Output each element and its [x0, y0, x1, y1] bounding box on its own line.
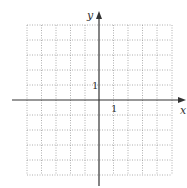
x-axis-label: x [180, 104, 187, 117]
y-axis [96, 11, 102, 186]
y-tick-label: 1 [92, 80, 98, 91]
y-axis-arrow-icon [96, 11, 102, 19]
y-axis-label: y [86, 9, 94, 22]
x-axis-arrow-icon [178, 97, 186, 103]
x-tick-label: 1 [111, 103, 117, 114]
coordinate-plane: y x 1 1 [0, 0, 187, 188]
